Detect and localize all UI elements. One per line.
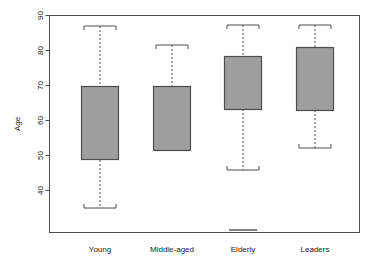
box-young — [82, 87, 119, 160]
box-group-leaders — [297, 25, 334, 148]
box-leaders — [297, 48, 334, 111]
x-label-elderly: Elderly — [231, 245, 255, 254]
y-tick-label-80: 80 — [36, 46, 45, 55]
box-middle-aged — [154, 87, 191, 151]
y-tick-label-40: 40 — [36, 186, 45, 195]
y-tick-label-60: 60 — [36, 116, 45, 125]
y-tick-label-50: 50 — [36, 151, 45, 160]
box-group-middle-aged — [154, 45, 191, 151]
y-tick-label-70: 70 — [36, 81, 45, 90]
x-axis-category-labels: Young Middle-aged Elderly Leaders — [89, 245, 330, 254]
boxplot-canvas: 90 80 70 60 50 40 Age — [0, 0, 371, 266]
y-axis-ticks — [46, 16, 50, 191]
x-label-young: Young — [89, 245, 111, 254]
box-group-elderly — [225, 25, 262, 230]
y-tick-label-90: 90 — [36, 11, 45, 20]
x-label-middle-aged: Middle-aged — [150, 245, 194, 254]
x-label-leaders: Leaders — [301, 245, 330, 254]
boxplot-figure: 90 80 70 60 50 40 Age — [0, 0, 371, 266]
y-axis-tick-labels: 90 80 70 60 50 40 — [36, 11, 45, 195]
box-group-young — [82, 26, 119, 208]
y-axis-title: Age — [13, 116, 22, 131]
box-elderly — [225, 57, 262, 110]
